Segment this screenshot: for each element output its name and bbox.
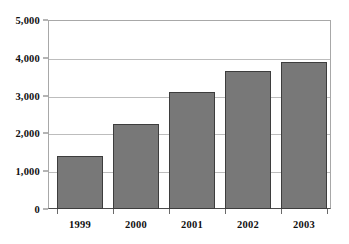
bar-slot-1999 (57, 20, 103, 209)
bar-slot-2003 (281, 20, 327, 209)
x-tick-label-2000: 2000 (125, 219, 147, 230)
bar-2000[interactable] (113, 124, 159, 209)
bar-1999[interactable] (57, 156, 103, 209)
y-tick-label-2000: 2,000 (15, 128, 40, 139)
bar-slot-2000 (113, 20, 159, 209)
x-tick-label-1999: 1999 (69, 219, 91, 230)
x-tick-mark-0 (57, 209, 58, 214)
bar-2002[interactable] (225, 71, 271, 209)
x-tick-label-2003: 2003 (293, 219, 315, 230)
bar-chart: 0 1,000 2,000 3,000 4,000 5,000 (0, 0, 349, 244)
x-tick-mark-4 (281, 209, 282, 214)
y-axis: 0 1,000 2,000 3,000 4,000 5,000 (0, 0, 48, 244)
x-tick-mark-5 (327, 209, 328, 214)
y-tick-label-1000: 1,000 (15, 166, 40, 177)
y-tick-label-3000: 3,000 (15, 90, 40, 101)
x-tick-label-2001: 2001 (181, 219, 203, 230)
x-tick-label-2002: 2002 (237, 219, 259, 230)
bar-slot-2002 (225, 20, 271, 209)
bar-2003[interactable] (281, 62, 327, 209)
bar-2001[interactable] (169, 92, 215, 209)
x-axis: 1999 2000 2001 2002 2003 (48, 209, 331, 244)
bars-layer (48, 20, 331, 209)
x-tick-mark-2 (169, 209, 170, 214)
bar-slot-2001 (169, 20, 215, 209)
y-tick-label-0: 0 (35, 204, 40, 215)
x-tick-mark-1 (113, 209, 114, 214)
y-tick-label-5000: 5,000 (15, 15, 40, 26)
y-tick-label-4000: 4,000 (15, 52, 40, 63)
x-tick-mark-3 (225, 209, 226, 214)
